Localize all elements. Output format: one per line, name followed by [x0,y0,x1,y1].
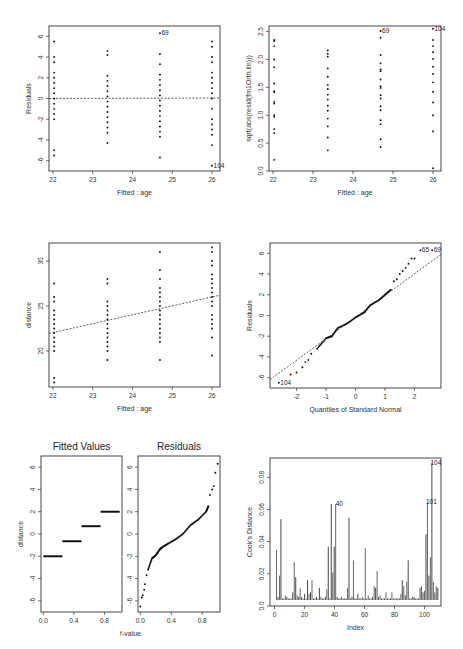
data-point [211,134,213,136]
data-point [327,76,329,78]
data-point [53,283,55,285]
data-point [53,337,55,339]
data-point [380,54,382,56]
x-tick-label: 0 [273,611,277,618]
data-point [107,50,109,52]
data-point [53,113,55,115]
plot-frame [49,243,220,387]
data-point [432,66,434,68]
data-point [380,105,382,107]
y-tick-label: 4 [37,55,44,59]
x-tick-label: 0.0 [39,617,48,624]
x-tick-label: 2 [413,393,417,400]
y-tick-label: -4 [37,137,44,143]
data-point [211,328,213,330]
y-tick-label: 4 [258,272,265,276]
data-point [159,341,161,343]
data-point [273,101,275,103]
data-point [211,56,213,58]
x-tick-label: 0.0 [136,617,145,624]
data-point [327,149,329,151]
data-point [146,574,148,576]
y-tick-label: 2 [126,510,133,514]
data-point [159,305,161,307]
data-point [107,359,109,361]
data-point [159,120,161,122]
panel-sqrt-abs-residuals: 22232425260.00.51.01.52.02.5Fitted : age… [245,25,446,197]
data-point [327,53,329,55]
y-axis: 0.00.51.01.52.02.5 [257,27,269,176]
data-point [390,289,392,291]
data-point [107,80,109,82]
data-point [53,118,55,120]
data-point [159,105,161,107]
data-point [380,98,382,100]
y-tick-label: -6 [37,157,44,163]
x-tick-label: 60 [361,611,369,618]
data-point [310,353,312,355]
data-point [432,51,434,53]
data-point [211,61,213,63]
data-point [107,314,109,316]
data-point [159,328,161,330]
data-point [53,341,55,343]
data-point [273,114,275,116]
data-point [107,106,109,108]
data-point [159,110,161,112]
subplot-title-residuals: Residuals [157,441,201,452]
plot-frame [41,456,122,612]
panel-normal-qq: -2-1012-6-4-20246Quantiles of Standard N… [246,243,441,414]
data-point [327,105,329,107]
panel-cooks-distance: 0204060801000.00.020.040.060.08IndexCook… [246,458,442,631]
y-tick-label: 2 [29,510,36,514]
y-tick-label: 1.5 [257,82,264,91]
data-point [211,46,213,48]
x-axis: 2223242526 [49,171,216,183]
data-point [159,319,161,321]
data-point [209,494,211,496]
data-point [211,278,213,280]
x-axis-label: Fitted : age [337,189,372,197]
data-point [273,40,275,42]
data-point [107,111,109,113]
data-point [107,75,109,77]
data-point [107,301,109,303]
data-point [301,366,303,368]
data-point [405,267,407,269]
data-point [432,130,434,132]
y-axis-label: distance [25,302,32,328]
data-point [53,92,55,94]
data-point [107,341,109,343]
data-point [159,332,161,334]
data-point [432,167,434,169]
data-point [217,463,219,465]
data-point [273,91,275,93]
data-point [380,119,382,121]
y-tick-label: 0.06 [258,503,265,516]
data-point [107,283,109,285]
data-point [211,251,213,253]
x-tick-label: 0.4 [69,617,78,624]
data-point [273,128,275,130]
data-point [211,98,213,100]
y-tick-label: 0.08 [258,471,265,484]
x-tick-label: 22 [49,176,57,183]
x-tick-label: 22 [269,176,277,183]
data-point [432,39,434,41]
data-point [53,41,55,43]
y-tick-label: 2 [37,76,44,80]
data-point [159,94,161,96]
data-point [107,332,109,334]
x-tick-label: 26 [208,392,216,399]
data-point [53,382,55,384]
data-point [159,89,161,91]
data-point [53,377,55,379]
data-point [159,251,161,253]
data-point [211,314,213,316]
data-point [380,79,382,81]
y-tick-label: 4 [29,487,36,491]
data-point [53,72,55,74]
y-axis: 202530 [37,257,49,355]
data-point [380,37,382,39]
x-axis-label: Fitted : age [117,189,152,197]
